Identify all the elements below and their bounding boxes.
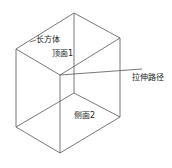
label-side-face: 侧面2 (74, 112, 95, 120)
edge-bottom-right (60, 117, 120, 153)
edge-bottom-left (16, 127, 60, 153)
label-extrude-path: 拉伸路径 (132, 74, 164, 82)
label-cuboid: 长方体 (36, 36, 60, 44)
cuboid-wireframe (0, 0, 172, 168)
label-top-face: 顶面1 (52, 50, 73, 58)
extrude-path-leader (60, 69, 142, 75)
edge-bottom-back-left (16, 93, 74, 127)
top-face-outline (16, 13, 120, 75)
